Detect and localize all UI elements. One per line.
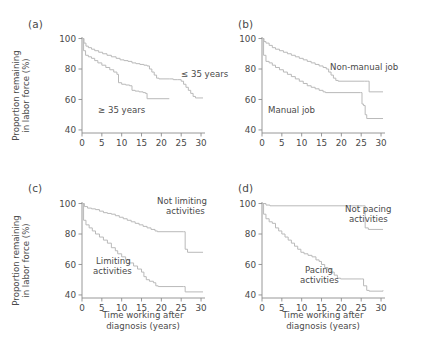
y-tick-label: 40	[65, 290, 77, 300]
y-tick-label: 60	[245, 95, 257, 105]
panel-letter-pacing-activities: (d)	[238, 182, 253, 194]
curve-label: ≥ 35 years	[98, 105, 145, 116]
curve-label: ≤ 35 years	[181, 69, 228, 80]
panel-letter-limiting-activities: (c)	[28, 182, 42, 194]
x-tick-label: 20	[156, 138, 168, 148]
x-tick-label: 25	[176, 138, 187, 148]
curve-label: activities	[349, 214, 388, 225]
plot-age-at-diagnosis: 406080100051015202530	[0, 0, 425, 354]
x-tick-label: 25	[356, 138, 367, 148]
y-tick-label: 40	[245, 125, 257, 135]
plot-job-type: 406080100051015202530	[0, 0, 425, 354]
y-tick-label: 40	[245, 290, 257, 300]
x-tick-label: 15	[316, 138, 327, 148]
y-axis-label: Proportion remainingin labor force (%)	[11, 205, 32, 315]
x-axis-label: Time working afterdiagnosis (years)	[63, 310, 223, 331]
x-axis-label-line2: diagnosis (years)	[63, 321, 223, 332]
panel-letter-age-at-diagnosis: (a)	[28, 18, 43, 30]
x-tick-label: 30	[195, 138, 207, 148]
y-tick-label: 80	[245, 229, 257, 239]
y-axis-label-line1: Proportion remaining	[11, 40, 21, 150]
y-tick-label: 80	[65, 229, 77, 239]
curve-label: Manual job	[268, 105, 315, 116]
x-tick-label: 10	[116, 138, 128, 148]
plot-limiting-activities: 406080100051015202530	[0, 0, 425, 354]
y-tick-label: 100	[239, 34, 256, 44]
x-tick-label: 0	[79, 138, 85, 148]
x-axis-label: Time working afterdiagnosis (years)	[243, 310, 403, 331]
y-tick-label: 60	[65, 260, 77, 270]
x-axis-label-line1: Time working after	[243, 310, 403, 321]
y-tick-label: 60	[65, 95, 77, 105]
curve-label: activities	[300, 275, 339, 286]
y-tick-label: 80	[65, 64, 77, 74]
curve-label: Non-manual job	[330, 62, 398, 73]
y-axis-label: Proportion remainingin labor force (%)	[11, 40, 32, 150]
curve-label: activities	[93, 266, 132, 277]
y-axis-label-line2: in labor force (%)	[21, 205, 31, 315]
x-tick-label: 30	[375, 138, 387, 148]
km-curve	[82, 39, 169, 99]
x-axis-label-line1: Time working after	[63, 310, 223, 321]
figure-panel-grid: (a)406080100051015202530≤ 35 years≥ 35 y…	[0, 0, 425, 354]
y-tick-label: 80	[245, 64, 257, 74]
y-tick-label: 100	[239, 199, 256, 209]
y-axis-label-line1: Proportion remaining	[11, 205, 21, 315]
y-tick-label: 100	[59, 34, 76, 44]
y-axis-label-line2: in labor force (%)	[21, 40, 31, 150]
x-tick-label: 10	[296, 138, 308, 148]
x-tick-label: 15	[136, 138, 147, 148]
plot-pacing-activities: 406080100051015202530	[0, 0, 425, 354]
km-curve	[82, 204, 203, 292]
x-tick-label: 5	[99, 138, 105, 148]
x-tick-label: 20	[336, 138, 348, 148]
x-tick-label: 0	[259, 138, 265, 148]
panel-letter-job-type: (b)	[238, 18, 253, 30]
y-tick-label: 40	[65, 125, 77, 135]
y-tick-label: 60	[245, 260, 257, 270]
x-axis-label-line2: diagnosis (years)	[243, 321, 403, 332]
curve-label: activities	[166, 206, 205, 217]
x-tick-label: 5	[279, 138, 285, 148]
y-tick-label: 100	[59, 199, 76, 209]
